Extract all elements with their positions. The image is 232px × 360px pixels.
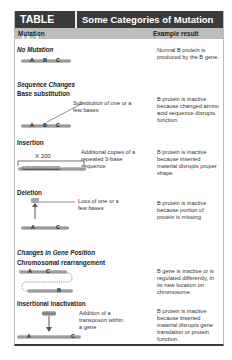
row-label: Deletion xyxy=(17,189,42,196)
gene-b-label: B xyxy=(43,57,47,64)
row-label: Insertion xyxy=(17,139,44,146)
column-header-result: Example result xyxy=(153,28,223,39)
repeat-sequence: CCCCCCCCCCCC xyxy=(22,165,60,172)
gene-a-label: A xyxy=(30,57,34,64)
gene-a-label: A xyxy=(30,122,34,129)
section-header-gene-position: Changes in Gene Position xyxy=(15,249,223,259)
column-header-mutation: Mutation xyxy=(15,28,153,39)
table-row-chromosomal-rearrangement: Chromosomal rearrangement A C B B gene i… xyxy=(15,259,223,299)
gene-c-label: C xyxy=(56,122,60,129)
gene-b-label: B xyxy=(57,287,61,294)
row-note: Addition of a transposon within a gene xyxy=(79,310,127,331)
gene-a-label: A xyxy=(27,333,31,340)
section-label: Sequence Changes xyxy=(17,81,75,88)
table-row-insertional-inactivation: Insertional inactivation Addition of a t… xyxy=(15,300,223,344)
gene-b-label: B xyxy=(43,122,47,129)
row-label: Base substitution xyxy=(17,90,70,97)
deletion-arrow xyxy=(31,199,77,221)
row-result: B protein is inactive because portion of… xyxy=(157,200,221,221)
table-number: TABLE 11.1 xyxy=(15,11,77,28)
gene-a-label: A xyxy=(31,224,35,231)
row-result: B gene is inactive or is regulated diffe… xyxy=(157,268,221,296)
row-note: Substitution of one or a few bases xyxy=(73,100,133,114)
row-result: Normal B protein is produced by the B ge… xyxy=(157,47,221,61)
table-title: Some Categories of Mutation xyxy=(77,11,223,28)
row-result: B protein is inactive because inserted m… xyxy=(157,308,221,343)
mutation-table: TABLE 11.1 Some Categories of Mutation M… xyxy=(14,11,224,346)
row-note: Loss of one or a few bases xyxy=(78,198,128,212)
dna-strand-diagram: A B C xyxy=(21,59,71,63)
gene-c-label: C xyxy=(71,333,75,340)
dna-strand-diagram: CCCCCCCCCCCC xyxy=(18,167,86,171)
row-label: Chromosomal rearrangement xyxy=(17,259,105,266)
row-label: Insertional inactivation xyxy=(17,300,86,307)
gene-c-label: C xyxy=(56,57,60,64)
dna-strand-diagram: A C xyxy=(17,335,81,339)
table-row-deletion: Deletion Loss of one or a few bases A C … xyxy=(15,189,223,243)
column-headers: Mutation Example result xyxy=(15,28,223,39)
row-label: No Mutation xyxy=(17,46,53,53)
dna-strand-diagram: A C xyxy=(21,226,69,230)
gene-c-label: C xyxy=(56,224,60,231)
row-result: B protein is inactive because inserted m… xyxy=(157,149,221,177)
table-row-no-mutation: No Mutation A B C Normal B protein is pr… xyxy=(15,44,223,72)
row-result: B protein is inactive because changed am… xyxy=(157,96,221,124)
table-row-insertion: Insertion Additional copies of a repeate… xyxy=(15,139,223,189)
row-note: Additional copies of a repeated 3-base s… xyxy=(81,149,137,170)
table-title-bar: TABLE 11.1 Some Categories of Mutation xyxy=(15,11,223,28)
insertion-arrow xyxy=(45,316,53,333)
table-row-base-substitution: Base substitution Substitution of one or… xyxy=(15,90,223,138)
section-label: Changes in Gene Position xyxy=(17,249,95,256)
dna-strand-diagram: A B C xyxy=(21,124,71,128)
dna-strand-bottom: B xyxy=(27,289,73,293)
multiplier-label: X 200 xyxy=(35,153,51,159)
